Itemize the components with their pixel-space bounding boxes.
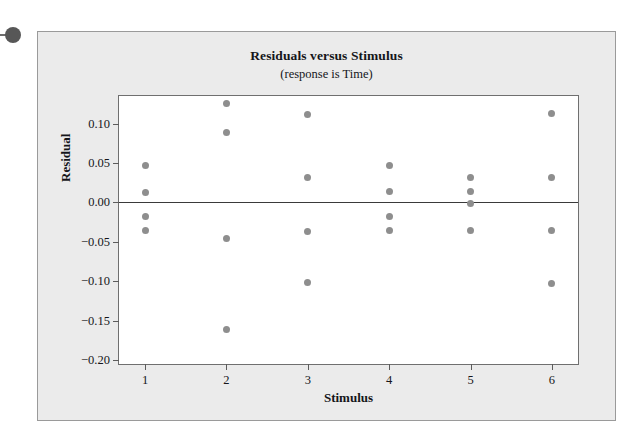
chart-title: Residuals versus Stimulus [38,48,615,64]
data-point [223,129,230,136]
data-point [223,100,230,107]
data-point [467,227,474,234]
y-tick-label: −0.10 [81,274,110,289]
zero-reference-line [119,202,578,203]
y-tick-mark [113,202,119,203]
x-tick-label: 5 [467,373,473,388]
y-tick-mark [113,321,119,322]
data-point [386,227,393,234]
data-point [304,111,311,118]
x-tick-mark [308,364,309,370]
data-point [304,228,311,235]
data-point [548,227,555,234]
pin-head [5,27,21,43]
data-point [548,110,555,117]
y-tick-label: 0.00 [88,195,110,210]
y-tick-mark [113,242,119,243]
data-point [142,213,149,220]
data-point [223,326,230,333]
data-point [467,174,474,181]
y-tick-mark [113,281,119,282]
data-point [142,227,149,234]
y-tick-label: 0.10 [88,116,110,131]
y-tick-label: −0.05 [81,234,110,249]
data-point [548,280,555,287]
y-tick-mark [113,163,119,164]
x-axis-title: Stimulus [118,390,579,406]
x-tick-label: 4 [386,373,392,388]
x-tick-mark [145,364,146,370]
x-tick-mark [471,364,472,370]
y-axis-title: Residual [58,134,74,182]
data-point [386,213,393,220]
x-tick-mark [226,364,227,370]
y-tick-label: 0.05 [88,156,110,171]
y-tick-mark [113,124,119,125]
data-point [142,162,149,169]
y-tick-label: −0.15 [81,313,110,328]
data-point [386,188,393,195]
data-point [223,235,230,242]
data-point [304,279,311,286]
data-point [386,162,393,169]
data-point [548,174,555,181]
plot-area: 0.100.050.00−0.05−0.10−0.15−0.20123456 [119,96,578,364]
x-tick-label: 1 [142,373,148,388]
y-tick-mark [113,360,119,361]
x-tick-label: 3 [305,373,311,388]
data-point [467,188,474,195]
data-point [467,200,474,207]
y-tick-label: −0.20 [81,353,110,368]
plot-frame: 0.100.050.00−0.05−0.10−0.15−0.20123456 [118,95,579,365]
x-tick-label: 2 [223,373,229,388]
x-tick-mark [389,364,390,370]
data-point [142,189,149,196]
chart-subtitle: (response is Time) [38,67,615,82]
data-point [304,174,311,181]
pin-marker-icon [0,26,30,44]
x-tick-mark [552,364,553,370]
x-tick-label: 6 [549,373,555,388]
figure-card: Residuals versus Stimulus (response is T… [37,31,616,421]
